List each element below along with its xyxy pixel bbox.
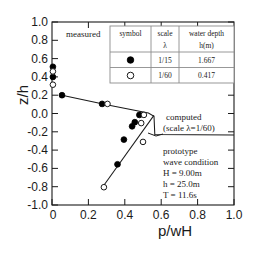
y-tick-label: -0.2 [27, 125, 48, 139]
legend-subheader-depth-unit: h(m) [199, 41, 214, 50]
measured-label: measured [66, 29, 101, 39]
water-depth-value: h = 25.0m [163, 179, 200, 189]
computed-annotation-line2: (scale λ=1/60) [163, 123, 215, 133]
wave-height-value: H = 9.00m [163, 168, 202, 178]
y-axis-title: z/h [14, 85, 31, 105]
data-point [140, 139, 146, 145]
data-point [50, 69, 56, 75]
pressure-distribution-plot: 1.0 0.8 0.6 0.4 0.2 0.0 -0.2 -0.4 -0.6 -… [0, 0, 257, 254]
x-tick-label: 0.4 [116, 208, 133, 222]
x-tick-label: 1.0 [226, 208, 243, 222]
x-tick-label: 0.6 [153, 208, 170, 222]
y-tick-label: 0.2 [31, 88, 48, 102]
legend-scale-value: 1/15 [158, 56, 172, 65]
y-tick-label: 0.8 [31, 33, 48, 47]
legend-open-circle-icon [127, 72, 134, 79]
legend-header-scale: scale [158, 29, 174, 38]
computed-annotation-line1: computed [166, 112, 202, 122]
data-point [121, 137, 127, 143]
x-tick-label: 0.8 [189, 208, 206, 222]
prototype-label: prototype [163, 146, 198, 156]
y-tick-label: -0.8 [27, 180, 48, 194]
data-point [99, 101, 105, 107]
wave-period-value: T = 11.6s [163, 190, 197, 200]
data-point [138, 120, 144, 126]
y-tick-label: 0.0 [31, 107, 48, 121]
y-tick-label: 0.4 [31, 70, 48, 84]
data-point [115, 161, 121, 167]
legend-depth-value: 1.667 [198, 56, 215, 65]
data-point [105, 101, 111, 107]
y-tick-label: -1.0 [27, 198, 48, 212]
data-point [129, 123, 135, 129]
x-tick-label: 0.2 [80, 208, 97, 222]
legend-header-depth: water depth [189, 29, 224, 38]
data-point [141, 112, 147, 118]
y-tick-label: 1.0 [31, 15, 48, 29]
y-tick-label: -0.4 [27, 143, 48, 157]
y-tick-labels: 1.0 0.8 0.6 0.4 0.2 0.0 -0.2 -0.4 -0.6 -… [27, 15, 48, 212]
x-tick-labels: 0 0.2 0.4 0.6 0.8 1.0 [50, 208, 243, 222]
data-point [59, 92, 65, 98]
legend-filled-circle-icon [127, 57, 134, 64]
wave-condition-label: wave condition [163, 157, 219, 167]
legend-scale-value: 1/60 [158, 71, 172, 80]
x-axis-title: p/wH [158, 222, 192, 239]
legend-depth-value: 0.417 [198, 71, 215, 80]
data-point [50, 82, 56, 88]
y-tick-label: 0.6 [31, 52, 48, 66]
x-tick-label: 0 [50, 208, 57, 222]
data-point [101, 184, 107, 190]
legend-header-symbol: symbol [119, 29, 141, 38]
data-point [50, 74, 56, 80]
legend-table: symbol scale water depth λ h(m) 1/15 1.6… [110, 26, 234, 83]
legend-subheader-lambda: λ [163, 41, 167, 50]
y-tick-label: -0.6 [27, 161, 48, 175]
chart-figure: 1.0 0.8 0.6 0.4 0.2 0.0 -0.2 -0.4 -0.6 -… [0, 0, 257, 254]
